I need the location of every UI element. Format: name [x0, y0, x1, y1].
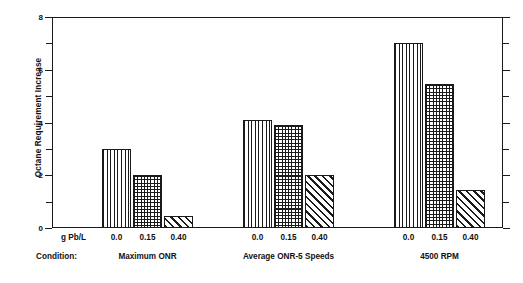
y-axis-minor-tick-right — [503, 96, 509, 97]
y-axis-major-tick — [45, 70, 52, 71]
bar — [425, 84, 454, 228]
condition-label-row: Condition: Maximum ONRAverage ONR-5 Spee… — [0, 252, 523, 266]
condition-group-label: Average ONR-5 Speeds — [243, 252, 334, 261]
dose-tick-label: 0.0 — [111, 233, 122, 242]
bar — [305, 175, 334, 228]
y-axis-major-tick-right — [503, 228, 510, 229]
y-axis-major-tick — [45, 17, 52, 18]
y-axis-major-tick — [45, 175, 52, 176]
bar — [133, 175, 162, 228]
y-axis-major-tick-right — [503, 17, 510, 18]
y-axis-tick-label: 8 — [39, 13, 43, 22]
y-axis-major-tick — [45, 228, 52, 229]
bar — [456, 190, 485, 228]
dose-row-header: g Pb/L — [61, 233, 86, 242]
bar — [394, 43, 423, 228]
bar — [243, 120, 272, 228]
y-axis-minor-tick — [46, 149, 52, 150]
dose-tick-label: 0.15 — [140, 233, 156, 242]
y-axis-minor-tick-right — [503, 149, 509, 150]
condition-row-header: Condition: — [36, 252, 77, 261]
y-axis-major-tick-right — [503, 70, 510, 71]
y-axis-major-tick-right — [503, 123, 510, 124]
y-axis-minor-tick — [46, 202, 52, 203]
condition-group-label: Maximum ONR — [118, 252, 176, 261]
bar — [102, 149, 131, 228]
octane-requirement-bar-chart: Octane Requirement Increase 02468 g Pb/L… — [0, 0, 523, 283]
bar — [274, 125, 303, 228]
y-axis-tick-label: 0 — [39, 224, 43, 233]
plot-area: 02468 — [52, 17, 503, 228]
dose-tick-label: 0.40 — [312, 233, 328, 242]
dose-label-row: g Pb/L 0.00.150.400.00.150.400.00.150.40 — [0, 233, 523, 247]
y-axis-tick-label: 2 — [39, 171, 43, 180]
y-axis-tick-label: 4 — [39, 118, 43, 127]
y-axis-minor-tick — [46, 43, 52, 44]
y-axis-major-tick-right — [503, 175, 510, 176]
y-axis-minor-tick-right — [503, 202, 509, 203]
y-axis-minor-tick — [46, 96, 52, 97]
y-axis-tick-label: 6 — [39, 65, 43, 74]
dose-tick-label: 0.0 — [252, 233, 263, 242]
bar — [164, 216, 193, 228]
dose-tick-label: 0.0 — [403, 233, 414, 242]
y-axis-major-tick — [45, 123, 52, 124]
dose-tick-label: 0.40 — [171, 233, 187, 242]
dose-tick-label: 0.15 — [432, 233, 448, 242]
dose-tick-label: 0.15 — [281, 233, 297, 242]
y-axis-minor-tick-right — [503, 43, 509, 44]
condition-group-label: 4500 RPM — [420, 252, 459, 261]
dose-tick-label: 0.40 — [463, 233, 479, 242]
